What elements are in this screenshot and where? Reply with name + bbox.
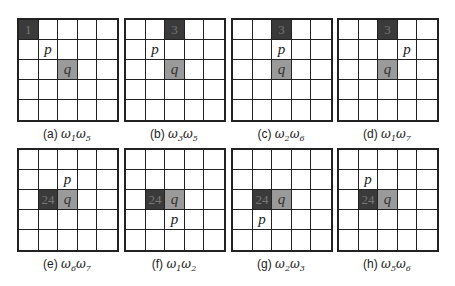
grid-cell — [185, 210, 205, 230]
q-label: q — [64, 61, 72, 78]
grid-cell — [359, 230, 379, 250]
grid-cell — [146, 20, 166, 40]
grid-cell — [292, 230, 312, 250]
p-label: p — [364, 171, 372, 188]
omega-symbol: ω1 — [61, 127, 76, 141]
grid-cell — [311, 40, 331, 60]
grid-cell — [359, 150, 379, 170]
q-label: q — [278, 191, 286, 208]
panel-caption: (e) ω6ω7 — [7, 257, 127, 273]
grid-cell — [339, 20, 359, 40]
grid-cell — [146, 210, 166, 230]
grid-cell — [233, 150, 253, 170]
grid-5x5: p24q — [17, 148, 119, 252]
seed-cell: 3 — [378, 20, 398, 40]
grid-cell — [126, 210, 146, 230]
omega-symbol: ω5 — [183, 127, 198, 141]
q-label: q — [278, 61, 286, 78]
grid-cell — [204, 170, 224, 190]
grid-cell — [78, 20, 98, 40]
grid-cell — [378, 210, 398, 230]
grid-cell — [359, 100, 379, 120]
grid-cell — [126, 40, 146, 60]
seed-cell: 3 — [272, 20, 292, 40]
grid-cell — [165, 40, 185, 60]
grid-cell — [204, 190, 224, 210]
grid-cell — [58, 210, 78, 230]
grid-cell — [398, 20, 418, 40]
grid-cell — [272, 170, 292, 190]
grid-cell — [339, 80, 359, 100]
grid-cell — [165, 80, 185, 100]
grid-cell — [417, 150, 437, 170]
grid-cell — [417, 20, 437, 40]
p-label: p — [258, 211, 266, 228]
p-cell: p — [146, 40, 166, 60]
grid-cell — [253, 60, 273, 80]
grid-cell — [185, 190, 205, 210]
grid-cell — [146, 170, 166, 190]
grid-cell — [185, 170, 205, 190]
caption-prefix: (e) — [43, 257, 61, 271]
grid-cell — [311, 210, 331, 230]
q-cell: q — [165, 190, 185, 210]
grid-cell — [292, 80, 312, 100]
grid-cell — [146, 230, 166, 250]
grid-cell — [204, 150, 224, 170]
grid-cell — [398, 80, 418, 100]
grid-cell — [311, 230, 331, 250]
grid-cell — [339, 100, 359, 120]
grid-cell — [359, 210, 379, 230]
grid-cell — [126, 20, 146, 40]
p-label: p — [403, 41, 411, 58]
grid-5x5: 3pq — [231, 18, 333, 122]
grid-cell — [146, 100, 166, 120]
grid-cell — [19, 230, 39, 250]
grid-cell — [185, 150, 205, 170]
grid-cell — [185, 80, 205, 100]
grid-cell — [339, 170, 359, 190]
grid-5x5: 24qp — [231, 148, 333, 252]
grid-cell — [58, 80, 78, 100]
panel-caption: (g) ω2ω3 — [221, 257, 341, 273]
grid-cell — [185, 60, 205, 80]
p-label: p — [151, 41, 159, 58]
panel-caption: (c) ω2ω6 — [221, 127, 341, 143]
grid-cell — [126, 190, 146, 210]
grid-cell — [233, 170, 253, 190]
grid-cell — [359, 40, 379, 60]
grid-cell — [97, 150, 117, 170]
p-label: p — [278, 41, 286, 58]
grid-cell — [339, 230, 359, 250]
omega-symbol: ω6 — [396, 257, 411, 271]
grid-cell — [204, 60, 224, 80]
grid-cell — [204, 20, 224, 40]
grid-cell — [272, 150, 292, 170]
p-cell: p — [58, 170, 78, 190]
q-label: q — [171, 191, 179, 208]
grid-cell — [272, 100, 292, 120]
grid-cell — [292, 210, 312, 230]
grid-cell — [253, 100, 273, 120]
grid-cell — [126, 170, 146, 190]
p-cell: p — [272, 40, 292, 60]
seed-cell: 24 — [253, 190, 273, 210]
p-cell: p — [359, 170, 379, 190]
grid-cell — [58, 20, 78, 40]
grid-cell — [126, 100, 146, 120]
grid-cell — [126, 80, 146, 100]
p-cell: p — [398, 40, 418, 60]
grid-cell — [272, 230, 292, 250]
grid-cell — [39, 230, 59, 250]
caption-prefix: (c) — [257, 127, 274, 141]
grid-cell — [146, 150, 166, 170]
omega-symbol: ω1 — [166, 257, 181, 271]
grid-cell — [398, 170, 418, 190]
grid-cell — [233, 190, 253, 210]
grid-cell — [292, 190, 312, 210]
grid-cell — [292, 20, 312, 40]
grid-cell — [58, 40, 78, 60]
grid-cell — [185, 100, 205, 120]
grid-cell — [204, 80, 224, 100]
grid-cell — [39, 170, 59, 190]
